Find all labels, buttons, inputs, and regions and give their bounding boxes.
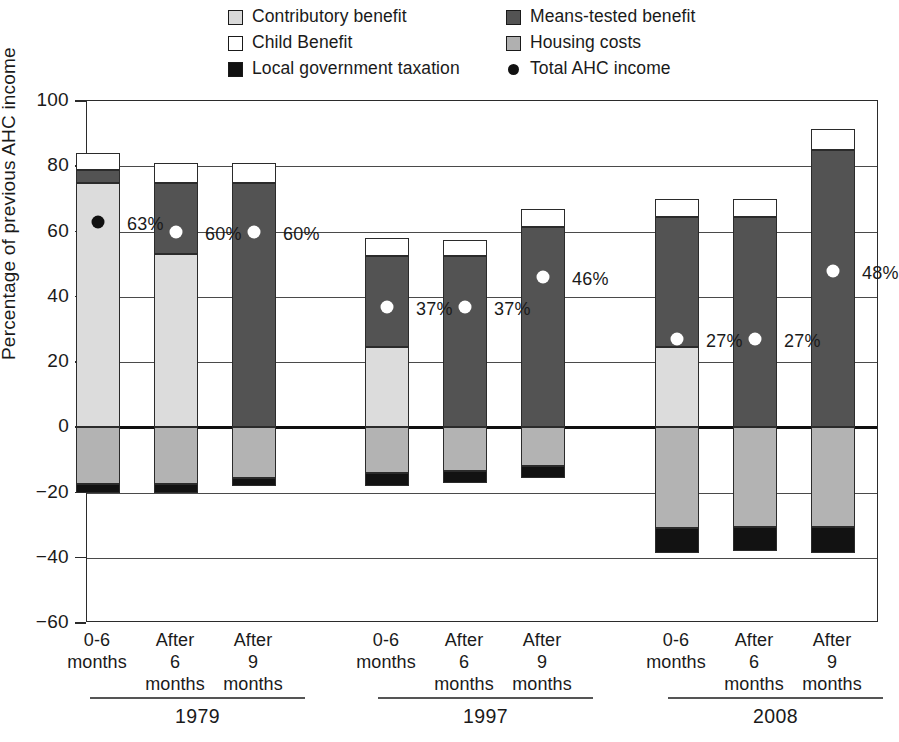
x-axis-label-line: 9	[787, 652, 877, 674]
total-ahc-income-value-label: 27%	[706, 331, 743, 352]
stacked-bar	[655, 101, 699, 623]
y-axis-tick-label: 100	[13, 89, 69, 111]
y-axis-tick-label: −40	[13, 546, 69, 568]
legend-label: Contributory benefit	[252, 8, 407, 26]
x-axis-category-label: After6months	[130, 630, 220, 696]
x-axis-label-line: 6	[709, 652, 799, 674]
bar-segment-housing	[154, 427, 198, 484]
total-ahc-income-marker	[749, 333, 762, 346]
bar-segment-localgov	[733, 527, 777, 551]
bar-segment-contributory	[154, 254, 198, 427]
x-axis-label-line: After	[787, 630, 877, 652]
bar-segment-child	[365, 238, 409, 256]
total-ahc-income-marker-icon	[506, 62, 521, 77]
bar-segment-means	[232, 183, 276, 428]
bar-segment-means	[811, 150, 855, 427]
bar-segment-child	[443, 240, 487, 256]
group-label-2008: 2008	[668, 705, 883, 728]
stacked-bar	[733, 101, 777, 623]
group-label-1979: 1979	[90, 705, 305, 728]
x-axis-category-label: After9months	[787, 630, 877, 696]
legend-label: Local government taxation	[252, 60, 460, 78]
bar-segment-child	[232, 163, 276, 183]
legend-label: Child Benefit	[252, 34, 353, 52]
bar-segment-housing	[811, 427, 855, 527]
y-axis-tick-label: 0	[13, 415, 69, 437]
bar-segment-child	[521, 209, 565, 227]
x-axis-category-label: After6months	[709, 630, 799, 696]
bar-segment-housing	[655, 427, 699, 528]
total-ahc-income-marker	[381, 300, 394, 313]
x-axis-label-line: After	[208, 630, 298, 652]
total-ahc-income-marker	[248, 225, 261, 238]
bar-segment-housing	[76, 427, 120, 484]
bar-segment-housing	[365, 427, 409, 473]
group-label-1997: 1997	[378, 705, 593, 728]
x-axis-label-line: 9	[208, 652, 298, 674]
bar-segment-localgov	[365, 473, 409, 486]
total-ahc-income-marker	[537, 271, 550, 284]
legend-column-2: Means-tested benefit Housing costs Total…	[506, 4, 695, 82]
bar-segment-localgov	[154, 484, 198, 492]
total-ahc-income-value-label: 37%	[494, 298, 531, 319]
x-axis-category-label: After6months	[419, 630, 509, 696]
stacked-bar	[811, 101, 855, 623]
stacked-bar	[154, 101, 198, 623]
y-axis-tick-label: 40	[13, 285, 69, 307]
x-axis-label-line: 9	[497, 652, 587, 674]
bar-segment-means	[76, 170, 120, 183]
x-axis-label-line: months	[787, 674, 877, 696]
legend-item-means-tested-benefit: Means-tested benefit	[506, 4, 695, 30]
x-axis-label-line: 0-6	[52, 630, 142, 652]
bar-segment-child	[154, 163, 198, 183]
x-axis-label-line: After	[419, 630, 509, 652]
bar-segment-means	[443, 256, 487, 427]
bar-segment-child	[76, 153, 120, 169]
total-ahc-income-marker	[92, 215, 105, 228]
x-axis-label-line: months	[709, 674, 799, 696]
total-ahc-income-marker	[459, 300, 472, 313]
total-ahc-income-value-label: 48%	[862, 262, 899, 283]
x-axis-label-line: After	[709, 630, 799, 652]
x-axis-label-line: 0-6	[341, 630, 431, 652]
x-axis-label-line: months	[631, 652, 721, 674]
legend-item-child-benefit: Child Benefit	[228, 30, 460, 56]
bar-segment-means	[521, 227, 565, 428]
stacked-bar	[365, 101, 409, 623]
bar-segment-contributory	[655, 347, 699, 427]
x-axis-label-line: 6	[130, 652, 220, 674]
total-ahc-income-marker	[671, 333, 684, 346]
total-ahc-income-value-label: 63%	[127, 213, 164, 234]
x-axis-label-line: months	[419, 674, 509, 696]
chart-legend: Contributory benefit Child Benefit Local…	[228, 4, 868, 86]
legend-label: Means-tested benefit	[530, 8, 695, 26]
x-axis-label-line: months	[341, 652, 431, 674]
bar-segment-localgov	[521, 466, 565, 477]
x-axis-label-line: months	[52, 652, 142, 674]
legend-item-housing-costs: Housing costs	[506, 30, 695, 56]
y-axis-tick-label: −20	[13, 481, 69, 503]
group-rule	[90, 697, 305, 699]
x-axis-category-label: 0-6months	[52, 630, 142, 674]
bar-segment-localgov	[76, 484, 120, 492]
legend-label: Total AHC income	[530, 60, 671, 78]
legend-item-contributory-benefit: Contributory benefit	[228, 4, 460, 30]
stacked-bar	[443, 101, 487, 623]
bar-segment-housing	[232, 427, 276, 478]
bar-segment-localgov	[811, 527, 855, 553]
contributory-benefit-swatch-icon	[228, 10, 243, 25]
x-axis-category-label: After9months	[497, 630, 587, 696]
group-rule	[668, 697, 883, 699]
bar-segment-means	[655, 217, 699, 348]
y-axis-tick-label: 60	[13, 220, 69, 242]
total-ahc-income-value-label: 37%	[416, 298, 453, 319]
legend-item-local-government-taxation: Local government taxation	[228, 56, 460, 82]
x-axis-label-line: months	[497, 674, 587, 696]
x-axis-label-line: After	[497, 630, 587, 652]
stacked-bar	[232, 101, 276, 623]
x-axis-label-line: After	[130, 630, 220, 652]
legend-item-total-ahc-income: Total AHC income	[506, 56, 695, 82]
y-axis-tick-label: 80	[13, 154, 69, 176]
total-ahc-income-value-label: 27%	[784, 331, 821, 352]
